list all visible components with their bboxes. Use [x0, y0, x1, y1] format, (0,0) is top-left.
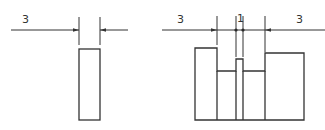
dimension-label: 3 [22, 13, 29, 26]
dimension-label: 3 [177, 13, 184, 26]
dimension-label: 1 [237, 12, 244, 25]
diagram-svg: 3 3 1 3 [0, 0, 325, 130]
stepped-profile [195, 48, 304, 120]
figure-single-slot [11, 17, 128, 120]
dimension-label: 3 [296, 13, 303, 26]
slot-rectangle [79, 49, 100, 120]
figure-stepped-groove [162, 16, 325, 120]
diagram-canvas: 3 3 1 3 [0, 0, 325, 130]
